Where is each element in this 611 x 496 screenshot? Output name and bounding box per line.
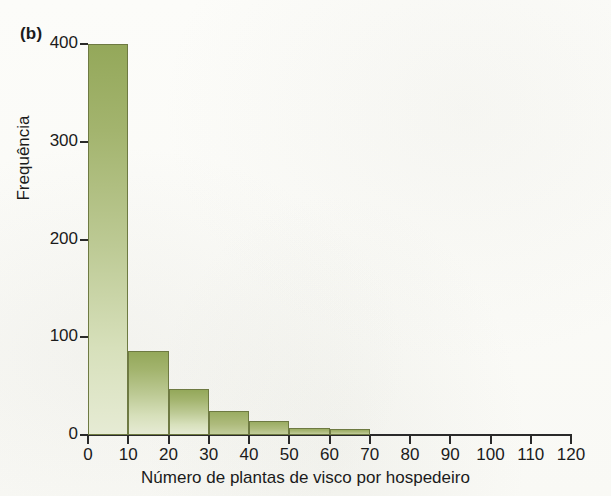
histogram-bar: [249, 421, 289, 435]
x-axis-tick: [490, 436, 492, 444]
y-axis-tick: [80, 239, 88, 241]
y-axis-tick: [80, 141, 88, 143]
histogram-bar: [330, 429, 370, 435]
y-axis-tick-label: 400: [18, 33, 78, 53]
x-axis-tick-label: 10: [105, 445, 151, 465]
x-axis-tick-label: 80: [387, 445, 433, 465]
x-axis-tick-label: 60: [307, 445, 353, 465]
plot-area: [88, 44, 571, 435]
y-axis-tick-label: 0: [18, 424, 78, 444]
x-axis-tick-label: 30: [186, 445, 232, 465]
x-axis-tick-label: 40: [226, 445, 272, 465]
y-axis-tick: [80, 336, 88, 338]
histogram-bar: [209, 411, 249, 435]
histogram-figure: (b) 0102030405060708090100110120 0100200…: [0, 0, 611, 496]
x-axis-tick: [449, 436, 451, 444]
x-axis-tick-label: 50: [266, 445, 312, 465]
histogram-bar: [169, 389, 209, 435]
histogram-bar: [88, 44, 128, 435]
histogram-bar: [128, 351, 168, 435]
x-axis-tick: [369, 436, 371, 444]
x-axis-tick-label: 70: [347, 445, 393, 465]
x-axis-tick-label: 20: [146, 445, 192, 465]
x-axis-tick: [208, 436, 210, 444]
y-axis-title: Frequência: [14, 78, 34, 238]
x-axis-tick: [87, 436, 89, 444]
y-axis-tick: [80, 43, 88, 45]
x-axis-tick: [570, 436, 572, 444]
x-axis-tick-label: 0: [65, 445, 111, 465]
x-axis-tick-label: 90: [427, 445, 473, 465]
x-axis-tick-label: 110: [508, 445, 554, 465]
x-axis-tick: [288, 436, 290, 444]
x-axis-tick: [168, 436, 170, 444]
x-axis-tick: [127, 436, 129, 444]
x-axis-tick: [329, 436, 331, 444]
x-axis-tick: [248, 436, 250, 444]
x-axis-tick-label: 120: [548, 445, 594, 465]
y-axis-tick-label: 100: [18, 326, 78, 346]
x-axis-tick: [530, 436, 532, 444]
x-axis-title: Número de plantas de visco por hospedeir…: [0, 468, 611, 488]
histogram-bar: [289, 428, 329, 435]
x-axis-tick: [409, 436, 411, 444]
x-axis-tick-label: 100: [468, 445, 514, 465]
